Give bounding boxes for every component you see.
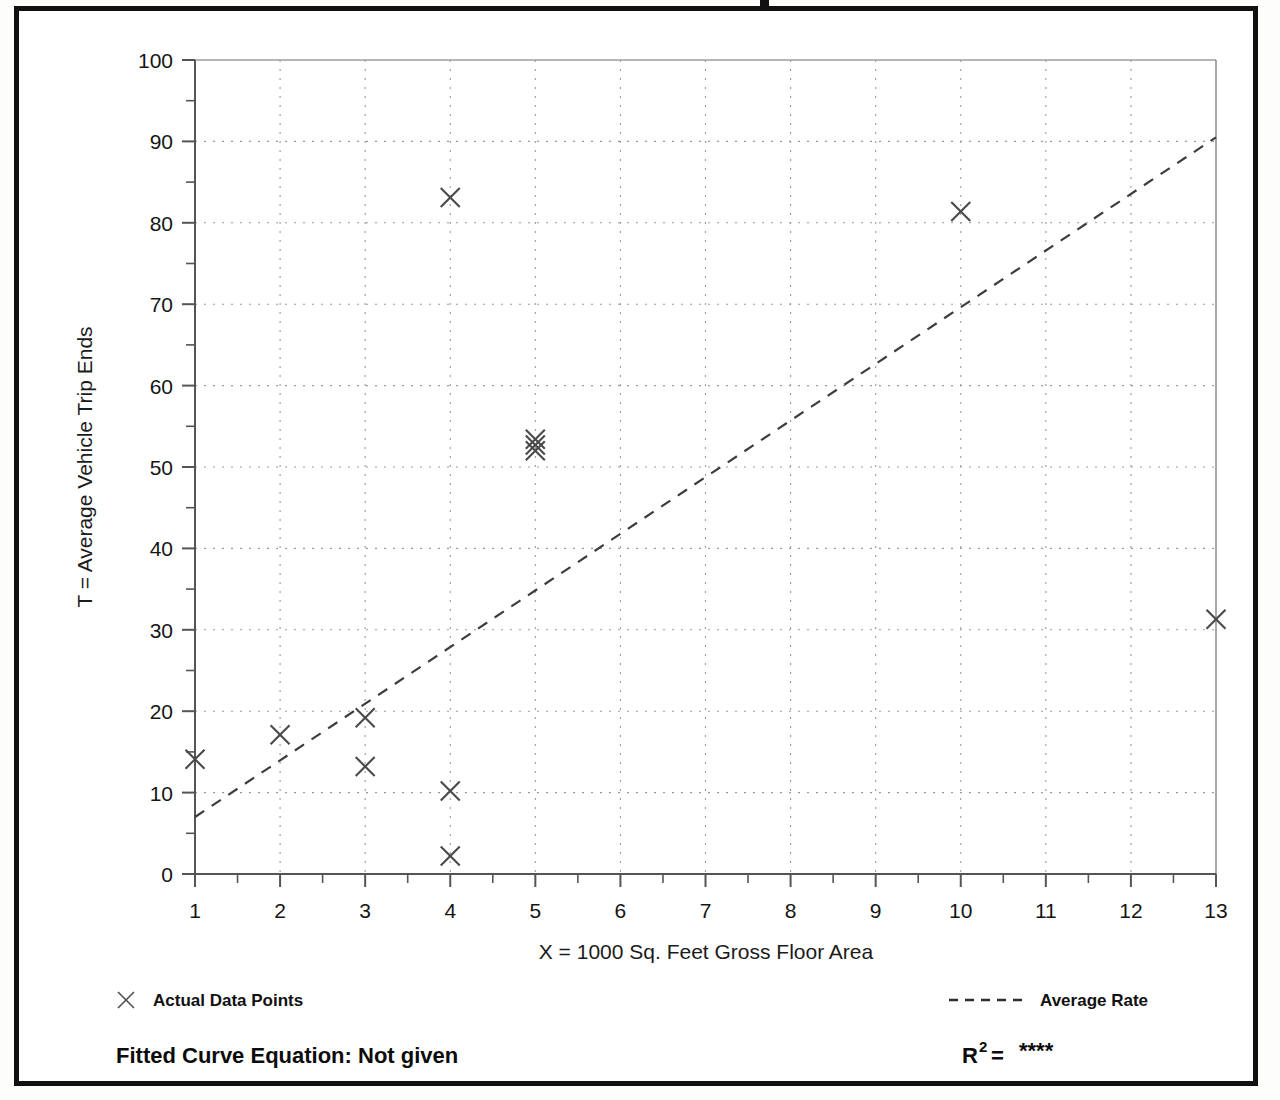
y-tick-label: 80	[150, 212, 173, 235]
y-tick-labels-group: 0102030405060708090100	[138, 49, 173, 886]
tick-marks-group	[182, 60, 1216, 887]
r-squared-value: ****	[1019, 1038, 1054, 1063]
scatter-plot-svg: 0102030405060708090100 12345678910111213…	[0, 0, 1280, 1100]
x-tick-label: 5	[529, 899, 541, 922]
y-tick-label: 0	[161, 863, 173, 886]
y-tick-label: 50	[150, 456, 173, 479]
data-point-marker	[271, 725, 290, 744]
x-tick-label: 6	[615, 899, 627, 922]
gridlines-group	[195, 60, 1216, 874]
x-tick-label: 9	[870, 899, 882, 922]
y-tick-label: 60	[150, 375, 173, 398]
y-tick-label: 100	[138, 49, 173, 72]
r-squared-exponent: 2	[979, 1038, 987, 1055]
legend-actual-data-points: Actual Data Points	[118, 991, 303, 1010]
y-tick-label: 10	[150, 782, 173, 805]
x-tick-label: 8	[785, 899, 797, 922]
r-squared-annotation: R 2 = ****	[962, 1038, 1054, 1068]
data-point-marker	[441, 781, 460, 800]
r-squared-prefix: R	[962, 1043, 978, 1068]
y-tick-label: 30	[150, 619, 173, 642]
y-tick-label: 90	[150, 130, 173, 153]
legend-average-rate-label: Average Rate	[1040, 991, 1148, 1010]
y-tick-label: 70	[150, 293, 173, 316]
r-squared-equals: =	[991, 1043, 1004, 1068]
average-rate-trendline	[195, 137, 1216, 817]
x-axis-title: X = 1000 Sq. Feet Gross Floor Area	[539, 940, 874, 963]
y-tick-label: 20	[150, 700, 173, 723]
y-tick-label: 40	[150, 537, 173, 560]
data-point-marker	[356, 708, 375, 727]
legend-average-rate: Average Rate	[949, 991, 1148, 1010]
chart-container: 0102030405060708090100 12345678910111213…	[0, 0, 1280, 1100]
x-tick-label: 10	[949, 899, 972, 922]
scanned-chart-page: 0102030405060708090100 12345678910111213…	[0, 0, 1280, 1100]
x-tick-label: 13	[1204, 899, 1227, 922]
x-tick-label: 4	[444, 899, 456, 922]
y-axis-title: T = Average Vehicle Trip Ends	[73, 326, 96, 607]
x-tick-label: 12	[1119, 899, 1142, 922]
data-point-marker	[356, 757, 375, 776]
x-tick-labels-group: 12345678910111213	[189, 899, 1228, 922]
fitted-curve-equation-text: Fitted Curve Equation: Not given	[116, 1043, 458, 1068]
x-tick-label: 7	[700, 899, 712, 922]
x-tick-label: 11	[1035, 899, 1057, 922]
x-tick-label: 2	[274, 899, 286, 922]
legend-actual-data-points-label: Actual Data Points	[153, 991, 303, 1010]
x-marker-icon	[118, 992, 134, 1008]
x-tick-label: 3	[359, 899, 371, 922]
x-tick-label: 1	[189, 899, 201, 922]
average-rate-trendline-group	[195, 137, 1216, 817]
